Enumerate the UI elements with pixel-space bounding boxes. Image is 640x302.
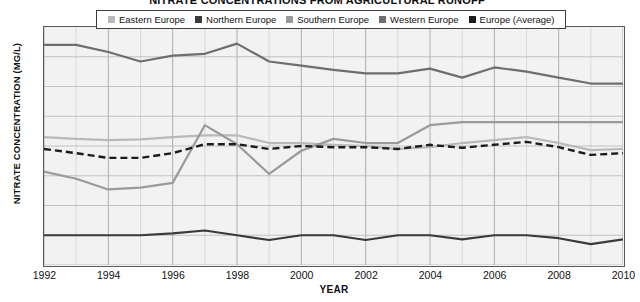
x-tick-label: 2006 (473, 269, 517, 281)
legend-item: Western Europe (379, 14, 458, 25)
plot-area (43, 26, 625, 267)
legend-item: Eastern Europe (108, 14, 185, 25)
legend-label: Western Europe (390, 14, 458, 25)
x-tick-label: 1992 (22, 269, 66, 281)
x-tick-label: 2002 (344, 269, 388, 281)
legend-label: Northern Europe (206, 14, 276, 25)
legend-swatch-icon (195, 16, 202, 23)
legend-label: Southern Europe (297, 14, 369, 25)
legend-swatch-icon (286, 16, 293, 23)
x-axis-title: YEAR (43, 284, 625, 295)
x-tick-label: 2004 (408, 269, 452, 281)
x-tick-label: 1998 (215, 269, 259, 281)
x-tick-label: 1996 (151, 269, 195, 281)
x-tick-label: 2008 (537, 269, 581, 281)
legend-swatch-icon (379, 16, 386, 23)
plot-svg (44, 27, 623, 265)
legend-swatch-icon (469, 16, 476, 23)
x-tick-label: 2010 (601, 269, 640, 281)
x-tick-label: 1994 (87, 269, 131, 281)
legend-item: Southern Europe (286, 14, 369, 25)
legend-item: Northern Europe (195, 14, 276, 25)
legend-label: Europe (Average) (480, 14, 555, 25)
chart-title: NITRATE CONCENTRATIONS FROM AGRICULTURAL… (0, 0, 634, 6)
legend-label: Eastern Europe (119, 14, 185, 25)
legend-swatch-icon (108, 16, 115, 23)
y-axis-title: NITRATE CONCENTRATION (MG/L) (11, 24, 22, 224)
x-tick-label: 2000 (280, 269, 324, 281)
chart-legend: Eastern EuropeNorthern EuropeSouthern Eu… (96, 10, 566, 29)
legend-item: Europe (Average) (469, 14, 555, 25)
